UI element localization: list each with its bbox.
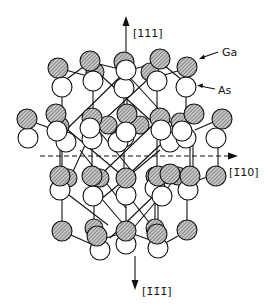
layer-middle-upper: [17, 104, 232, 152]
axis-111-down: [132, 256, 139, 290]
bond-network: [60, 70, 218, 238]
layer-middle-lower: [50, 164, 226, 206]
atom-ga: [48, 58, 68, 78]
label-axis-111: [111]: [133, 27, 163, 40]
atom-as: [172, 121, 192, 141]
atom-as: [18, 128, 38, 148]
atom-as: [83, 71, 103, 91]
atom-ga: [52, 221, 72, 241]
atom-ga: [50, 166, 70, 186]
arrow-down-icon: [132, 280, 139, 290]
atom-ga: [116, 168, 136, 188]
atom-as: [206, 128, 226, 148]
atom-ga: [160, 164, 180, 184]
atom-ga: [87, 226, 107, 246]
atom-ga: [206, 166, 226, 186]
layer-bottom: [52, 219, 197, 260]
atom-as: [147, 71, 167, 91]
layer-top: [48, 49, 197, 98]
atom-ga: [180, 166, 200, 186]
atom-ga: [116, 221, 136, 241]
atom-as: [47, 121, 67, 141]
axis-110-dashed: [40, 153, 238, 160]
atom-ga: [177, 57, 197, 77]
species-leaders: [197, 52, 218, 89]
arrow-right-icon: [228, 153, 238, 160]
label-as: As: [218, 84, 232, 97]
axis-111-up: [123, 16, 130, 52]
atom-as: [80, 118, 100, 138]
atom-as: [176, 77, 196, 97]
label-axis-neg110: [1̄10]: [229, 166, 259, 179]
label-axis-neg-111: [1̄1̄1̄]: [142, 285, 172, 298]
atom-ga: [177, 220, 197, 240]
atom-ga: [80, 51, 100, 71]
atom-as: [151, 120, 171, 140]
atom-as: [116, 60, 136, 80]
atom-as: [114, 78, 134, 98]
atom-ga: [82, 166, 102, 186]
label-ga: Ga: [222, 46, 237, 59]
atom-as: [83, 186, 103, 206]
gaas-crystal-diagram: [111] [1̄1̄1̄] [1̄10] Ga As: [0, 0, 266, 304]
atom-ga: [17, 109, 37, 129]
atom-as: [116, 122, 136, 142]
atom-ga: [117, 104, 137, 124]
atom-ga: [150, 49, 170, 69]
atom-ga: [147, 224, 167, 244]
atom-ga: [184, 104, 204, 124]
atom-ga: [212, 109, 232, 129]
arrow-up-icon: [123, 16, 130, 26]
atom-as: [52, 77, 72, 97]
atom-as: [152, 186, 172, 206]
